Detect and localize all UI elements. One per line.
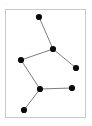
graph-edge (53, 49, 76, 68)
graph-edge (21, 49, 53, 60)
graph-edge (39, 17, 53, 49)
graph-node[interactable] (73, 65, 79, 71)
edges-layer (21, 17, 76, 110)
diagram-stage: ···· ·· ··· (0, 0, 92, 126)
graph-edge (40, 88, 72, 89)
constellation-graph (0, 0, 92, 126)
graph-node[interactable] (50, 46, 56, 52)
graph-node[interactable] (18, 57, 24, 63)
graph-edge (21, 60, 40, 89)
graph-node[interactable] (21, 107, 27, 113)
graph-edge (24, 89, 40, 110)
graph-node[interactable] (36, 14, 42, 20)
graph-node[interactable] (37, 86, 43, 92)
graph-node[interactable] (69, 85, 75, 91)
